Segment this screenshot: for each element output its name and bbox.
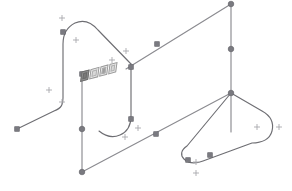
options-tool-icon[interactable] xyxy=(108,61,118,74)
left-swept-profile[interactable] xyxy=(17,21,131,129)
select-tool-icon[interactable] xyxy=(80,69,90,82)
constraint-marker-icon xyxy=(135,125,140,130)
node-center-vertical-bottom[interactable] xyxy=(79,169,85,175)
node-left-endpoint[interactable] xyxy=(15,127,20,132)
constraint-marker-icon xyxy=(59,15,64,20)
node-right-vertical-mid[interactable] xyxy=(228,46,234,52)
node-center-profile-top[interactable] xyxy=(129,65,134,70)
constraint-marker-icon xyxy=(59,99,64,104)
curve-layer xyxy=(17,4,273,172)
right-rounded-panel[interactable] xyxy=(182,93,273,163)
constraint-tool-icon[interactable] xyxy=(99,64,109,77)
node-panel-corner[interactable] xyxy=(228,90,234,96)
node-top-diagonal-right[interactable] xyxy=(228,1,234,7)
top-diagonal-edge[interactable] xyxy=(126,4,231,69)
node-top-diagonal-mid[interactable] xyxy=(155,42,160,47)
node-center-profile-mid[interactable] xyxy=(129,117,134,122)
node-left-profile-bend[interactable] xyxy=(61,30,66,35)
constraint-marker-icon xyxy=(193,159,198,164)
node-center-vertical-mid[interactable] xyxy=(79,126,85,132)
node-bottom-diagonal-mid[interactable] xyxy=(154,132,159,137)
node-panel-bottom-left[interactable] xyxy=(186,158,191,163)
sketch-canvas[interactable] xyxy=(0,0,292,191)
constraint-marker-icon xyxy=(122,134,127,139)
constraint-marker-icon xyxy=(123,48,128,53)
node-panel-bottom-right[interactable] xyxy=(208,153,213,158)
constraint-marker-icon xyxy=(46,87,51,92)
constraint-marker-icon xyxy=(254,124,259,129)
constraint-marker-icon xyxy=(193,170,198,175)
wireframe-sketch[interactable] xyxy=(0,0,292,191)
constraint-marker-icon xyxy=(276,124,281,129)
control-node-layer xyxy=(15,1,234,175)
constraint-marker-icon xyxy=(73,37,78,42)
dimension-tool-icon[interactable] xyxy=(89,66,99,79)
